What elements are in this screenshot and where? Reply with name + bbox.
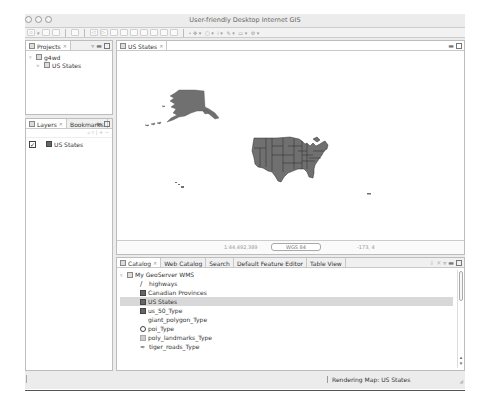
minimize-icon[interactable]: ▬ — [96, 42, 102, 49]
forward-icon[interactable]: ▷ — [100, 29, 108, 36]
catalog-item[interactable]: poly_landmarks_Type — [120, 333, 453, 342]
minimize-icon[interactable]: ▬ — [448, 42, 454, 49]
next-extent-icon[interactable] — [160, 29, 168, 36]
minimize-icon[interactable]: ▬ — [96, 120, 102, 127]
zoom-in-icon[interactable] — [130, 29, 138, 36]
scrollbar-thumb[interactable] — [459, 271, 463, 301]
resize-grip-icon[interactable]: ◢ — [459, 378, 463, 384]
expand-icon[interactable]: ▿ — [120, 272, 125, 278]
toolbar-separator — [65, 29, 66, 37]
add-layer-icon[interactable]: + — [99, 129, 103, 135]
catalog-item[interactable]: ∕ highways — [120, 279, 453, 288]
projects-tabbar: Projects ✕ ▿ ▬ — [26, 41, 112, 51]
app-window: User-friendly Desktop Internet GIS ▫▾ ◁ … — [25, 14, 465, 389]
back-icon[interactable]: ◁ — [90, 29, 98, 36]
minimize-icon[interactable]: ▬ — [448, 259, 454, 266]
import-icon[interactable]: ⇩ — [429, 259, 434, 266]
view-controls: ▬ — [448, 42, 462, 49]
catalog-item[interactable]: Canadian Provinces — [120, 288, 453, 297]
projects-panel: Projects ✕ ▿ ▬ ▿ g4wd ▹ US States — [25, 40, 113, 115]
project-icon — [36, 54, 42, 60]
maximize-icon[interactable] — [104, 43, 110, 49]
status-message: Rendering Map: US States — [327, 376, 410, 383]
catalog-item[interactable]: giant_polygon_Type — [120, 315, 453, 324]
layers-panel: Layers ✕ Bookmarks ▬ ▵ ▿ | + − ✓ US Stat… — [25, 118, 113, 371]
select-tool-icon[interactable]: ▢ ▾ — [203, 30, 213, 36]
save-icon[interactable] — [42, 29, 50, 36]
new-icon[interactable]: ▫ — [27, 29, 35, 36]
map-tabbar: US States ✕ ▬ — [117, 41, 464, 51]
projects-tree: ▿ g4wd ▹ US States — [26, 51, 112, 71]
server-icon — [127, 272, 133, 278]
close-icon[interactable]: ✕ — [63, 43, 67, 49]
map-status-bar: 1:44,492,389 WGS 84 -173, 4 — [117, 240, 464, 254]
close-icon[interactable]: ✕ — [153, 260, 157, 266]
map-icon — [120, 43, 126, 49]
scroll-down-icon[interactable]: ▾ — [459, 361, 463, 366]
tab-catalog[interactable]: Catalog ✕ — [117, 258, 161, 267]
tab-search[interactable]: Search — [206, 258, 234, 267]
catalog-item[interactable]: us_50_Type — [120, 306, 453, 315]
edit-tool-icon[interactable]: ✎ ▾ — [225, 30, 235, 36]
alaska-shape — [145, 90, 219, 126]
new-dropdown[interactable]: ▾ — [37, 30, 40, 36]
tab-layers[interactable]: Layers ✕ — [26, 119, 67, 128]
projects-icon — [29, 43, 35, 49]
save-all-icon[interactable] — [52, 29, 60, 36]
view-menu-icon[interactable]: ▿ — [91, 42, 94, 49]
layers-toolbar: ▵ ▿ | + − — [26, 129, 112, 138]
move-down-icon[interactable]: ▿ — [92, 129, 95, 135]
move-up-icon[interactable]: ▵ — [88, 129, 91, 135]
window-title: User-friendly Desktop Internet GIS — [25, 16, 465, 24]
layer-item[interactable]: ✓ US States — [29, 140, 109, 148]
tab-us-states-map[interactable]: US States ✕ — [117, 41, 167, 50]
tab-web-catalog[interactable]: Web Catalog — [161, 258, 206, 267]
title-bar: User-friendly Desktop Internet GIS — [25, 14, 465, 26]
bottom-rule — [25, 390, 465, 391]
maximize-icon[interactable] — [456, 43, 462, 49]
tree-item-project[interactable]: ▿ g4wd — [29, 53, 109, 61]
catalog-item[interactable]: poi_Type — [120, 324, 453, 333]
other-tool-icon[interactable]: ⚙ ▾ — [249, 30, 259, 36]
stop-icon[interactable] — [170, 29, 178, 36]
tree-item-map[interactable]: ▹ US States — [29, 61, 109, 69]
expand-icon[interactable]: ▿ — [29, 54, 34, 60]
close-icon[interactable]: ✕ — [159, 43, 163, 49]
layer-visibility-checkbox[interactable]: ✓ — [29, 141, 36, 148]
puerto-rico-shape — [367, 193, 371, 195]
previous-extent-icon[interactable] — [150, 29, 158, 36]
pan-tool-icon[interactable]: • ✥ ▾ — [189, 30, 202, 36]
layers-list: ✓ US States — [26, 138, 112, 150]
tab-projects[interactable]: Projects ✕ — [26, 41, 71, 50]
line-icon: ∕ — [140, 280, 147, 288]
zoom-extent-icon[interactable] — [120, 29, 128, 36]
catalog-tree: ▿ My GeoServer WMS ∕ highways Canadian P… — [117, 268, 456, 370]
tab-table-view[interactable]: Table View — [307, 258, 346, 267]
remove-icon[interactable]: ✕ — [436, 259, 441, 266]
create-tool-icon[interactable]: ▭ ▾ — [237, 30, 247, 36]
tab-default-feature-editor[interactable]: Default Feature Editor — [234, 258, 307, 267]
maximize-icon[interactable] — [104, 121, 110, 127]
catalog-item[interactable]: ≈ tiger_roads_Type — [120, 342, 453, 351]
catalog-root[interactable]: ▿ My GeoServer WMS — [120, 270, 453, 279]
us-states-map — [117, 51, 464, 240]
collapsed-icon[interactable]: ▹ — [37, 62, 42, 68]
catalog-scrollbar[interactable]: ▴ ▾ — [457, 270, 463, 368]
print-icon[interactable] — [71, 29, 79, 36]
zoom-out-icon[interactable] — [140, 29, 148, 36]
road-icon: ≈ — [140, 343, 147, 350]
refresh-icon[interactable] — [110, 29, 118, 36]
maximize-icon[interactable] — [456, 260, 462, 266]
info-tool-icon[interactable]: i ▾ — [216, 30, 223, 36]
catalog-item-selected[interactable]: US States — [120, 297, 453, 306]
layers-tabbar: Layers ✕ Bookmarks ▬ — [26, 119, 112, 129]
remove-layer-icon[interactable]: − — [105, 129, 109, 135]
scale-label: 1:44,492,389 — [224, 244, 258, 250]
crs-button[interactable]: WGS 84 — [271, 243, 321, 251]
map-canvas[interactable] — [117, 51, 464, 240]
point-icon — [140, 326, 146, 332]
view-menu-icon[interactable]: ▿ — [443, 259, 446, 266]
close-icon[interactable]: ✕ — [59, 121, 63, 127]
separator: | — [96, 129, 98, 135]
layers-icon — [29, 121, 35, 127]
